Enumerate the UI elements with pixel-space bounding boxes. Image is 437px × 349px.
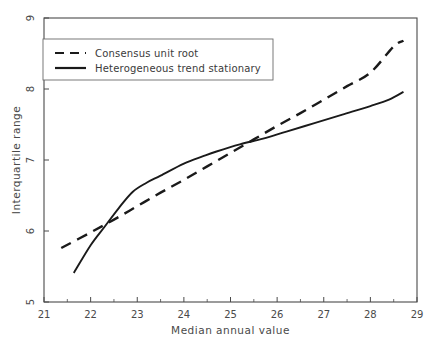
x-tick-label: 27 <box>317 309 330 320</box>
x-tick-label: 26 <box>271 309 284 320</box>
line-chart: 212223242526272829 56789 Median annual v… <box>0 0 437 349</box>
y-tick-label: 7 <box>25 157 36 163</box>
x-axis-title: Median annual value <box>171 324 290 336</box>
x-tick-label: 28 <box>364 309 377 320</box>
chart-figure: 212223242526272829 56789 Median annual v… <box>0 0 437 349</box>
y-tick-label: 8 <box>25 86 36 92</box>
x-tick-label: 23 <box>131 309 144 320</box>
chart-legend: Consensus unit root Heterogeneous trend … <box>43 39 273 80</box>
y-tick-label: 9 <box>25 15 36 21</box>
x-tick-label: 22 <box>84 309 97 320</box>
x-tick-label: 21 <box>38 309 51 320</box>
y-tick-label: 6 <box>25 228 36 234</box>
legend-box <box>43 39 273 80</box>
x-tick-label: 29 <box>411 309 424 320</box>
x-tick-label: 25 <box>224 309 237 320</box>
legend-label-heterogeneous-trend-stationary: Heterogeneous trend stationary <box>95 63 261 74</box>
legend-label-consensus-unit-root: Consensus unit root <box>95 48 198 59</box>
x-tick-label: 24 <box>178 309 191 320</box>
y-axis-title: Interquartile range <box>10 106 22 214</box>
y-tick-label: 5 <box>25 299 36 305</box>
